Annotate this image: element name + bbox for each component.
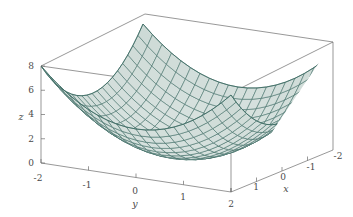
z-tick-label: 8 [28, 61, 34, 71]
y-axis-title: y [131, 198, 138, 209]
x-tick-label: -1 [307, 162, 316, 172]
z-tick-label: 4 [28, 109, 34, 119]
y-tick-label: 2 [228, 199, 234, 209]
x-axis-title: x [283, 183, 289, 194]
surface-plot-figure: 8 6 4 2 0 z -2 -1 0 1 2 y 1 0 -1 -2 x [0, 0, 353, 217]
x-tick-label: 0 [280, 172, 286, 182]
z-tick-label: 6 [28, 85, 34, 95]
z-tick-label: 0 [28, 158, 34, 168]
y-tick-label: -1 [83, 180, 92, 190]
y-tick-label: -2 [34, 173, 43, 183]
z-tick-label: 2 [28, 134, 34, 144]
y-tick-label: 0 [132, 186, 138, 196]
x-tick-label: 1 [253, 182, 259, 192]
x-tick-label: -2 [334, 151, 343, 161]
y-tick-label: 1 [180, 192, 186, 202]
z-axis-title: z [17, 111, 24, 122]
plot-canvas: 8 6 4 2 0 z -2 -1 0 1 2 y 1 0 -1 -2 x [0, 0, 353, 217]
